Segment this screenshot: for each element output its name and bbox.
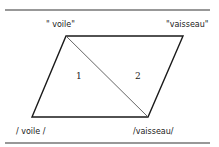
region-label-2: 2 (135, 71, 141, 81)
label-bottom-left: / voile / (16, 127, 46, 136)
label-bottom-right: /vaisseau/ (133, 127, 174, 136)
label-top-right: "vaisseau" (166, 20, 208, 29)
parallelogram-diagram: " voile" "vaisseau" / voile / /vaisseau/… (0, 0, 219, 147)
region-label-1: 1 (76, 71, 82, 81)
label-top-left: " voile" (46, 20, 75, 29)
